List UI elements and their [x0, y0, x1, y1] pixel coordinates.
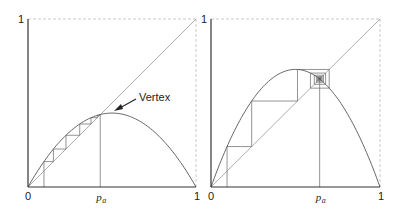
x-tick-label-p-a: p	[315, 191, 322, 203]
x-tick-label-1: 1	[194, 190, 200, 202]
diagonal-line	[211, 19, 380, 187]
x-tick-label-0: 0	[208, 190, 214, 202]
left-panel: 011paVertex	[18, 13, 200, 205]
x-tick-label-subscript-a: a	[322, 196, 326, 205]
right-panel: 011pa	[201, 13, 384, 205]
y-tick-label-1: 1	[18, 13, 24, 25]
x-tick-label-0: 0	[25, 190, 31, 202]
parabola-curve	[211, 69, 380, 187]
x-tick-label-subscript-a: a	[102, 196, 106, 205]
vertex-annotation: Vertex	[139, 91, 171, 103]
cobweb-path	[227, 69, 329, 187]
cobweb-figure: 011paVertex 011pa	[0, 0, 403, 216]
x-tick-label-1: 1	[378, 190, 384, 202]
y-tick-label-1: 1	[201, 13, 207, 25]
x-tick-label-p-a: p	[95, 191, 102, 203]
vertex-arrow-head-icon	[114, 104, 123, 111]
